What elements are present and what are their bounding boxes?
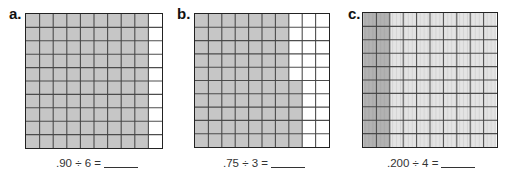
problem-a-label: a. [9, 5, 22, 22]
problem-a: a. .90 ÷ 6 = [0, 0, 175, 178]
hundredths-grid-a [25, 13, 163, 149]
grid-cells [363, 13, 497, 147]
grid-cells [26, 14, 162, 148]
equation-b-text: .75 ÷ 3 = [223, 157, 268, 169]
shaded-region [289, 81, 302, 148]
equation-b: .75 ÷ 3 = [223, 157, 305, 169]
problem-c: c. .200 ÷ 4 = [345, 0, 514, 178]
answer-blank-c[interactable] [441, 167, 475, 168]
problem-c-label: c. [348, 5, 361, 22]
problem-b-label: b. [177, 5, 190, 22]
hundredths-grid-b [194, 13, 330, 148]
grid-cells [195, 14, 329, 147]
equation-c: .200 ÷ 4 = [387, 157, 475, 169]
equation-a-text: .90 ÷ 6 = [56, 157, 101, 169]
problem-b: b. .75 ÷ 3 = [175, 0, 345, 178]
answer-blank-b[interactable] [271, 167, 305, 168]
equation-a: .90 ÷ 6 = [56, 157, 138, 169]
answer-blank-a[interactable] [104, 167, 138, 168]
equation-c-text: .200 ÷ 4 = [387, 157, 438, 169]
thousandths-grid-c [362, 12, 498, 148]
